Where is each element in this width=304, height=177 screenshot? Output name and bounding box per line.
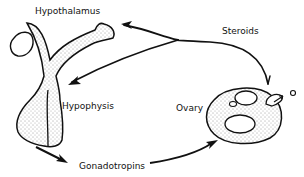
hormone-feedback-diagram: Hypothalamus Steroids Hypophysis Ovary G… <box>0 0 304 177</box>
gonadotropins-arrow-ovary <box>150 140 218 163</box>
label-gonadotropins: Gonadotropins <box>79 162 145 171</box>
label-hypophysis: Hypophysis <box>62 102 114 111</box>
follicle-large <box>225 115 255 133</box>
label-ovary: Ovary <box>176 104 203 113</box>
arrowhead-hypothalamus-icon <box>121 21 132 29</box>
ovum <box>291 91 296 96</box>
ovary-shape <box>207 88 296 143</box>
follicle <box>235 91 257 105</box>
label-hypothalamus: Hypothalamus <box>35 7 100 16</box>
gonadotropins-arrow-down <box>36 147 68 163</box>
label-steroids: Steroids <box>222 27 259 36</box>
hypothalamus-shape <box>11 32 34 56</box>
arrowhead-hypophysis-icon <box>68 76 81 85</box>
follicle-small <box>230 102 237 107</box>
